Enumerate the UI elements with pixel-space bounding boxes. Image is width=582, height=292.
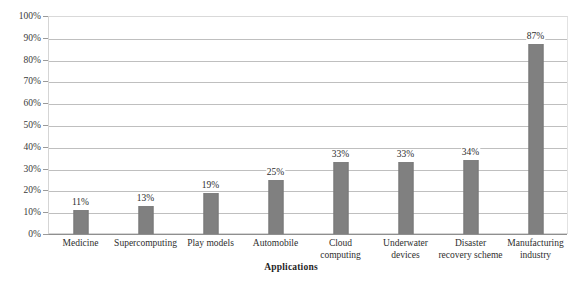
bar <box>463 160 478 234</box>
y-axis-tick-label: 90% <box>1 33 41 43</box>
bar <box>73 210 88 234</box>
bar <box>203 193 218 234</box>
bars-layer: 11%13%19%25%33%33%34%87% <box>48 16 568 234</box>
x-axis-category-label: Manufacturing industry <box>503 238 568 261</box>
bar <box>398 162 413 234</box>
x-axis-category-label: Play models <box>178 238 243 250</box>
bar-group: 13% <box>113 16 178 234</box>
y-axis-tick-label: 80% <box>1 55 41 65</box>
y-axis-tick-label: 50% <box>1 120 41 130</box>
x-axis-labels: MedicineSupercomputingPlay modelsAutomob… <box>48 238 568 284</box>
y-axis-tick-label: 20% <box>1 185 41 195</box>
x-axis-category-label: Automobile <box>243 238 308 250</box>
y-axis-tick-label: 70% <box>1 76 41 86</box>
y-axis-tick-label: 10% <box>1 207 41 217</box>
y-axis-tick-label: 0% <box>1 229 41 239</box>
y-axis-tick-label: 100% <box>1 11 41 21</box>
x-axis-category-label: Supercomputing <box>113 238 178 250</box>
y-axis-tick-label: 30% <box>1 164 41 174</box>
x-axis-category-label: Underwater devices <box>373 238 438 261</box>
bar-value-label: 33% <box>331 149 350 160</box>
bar <box>138 206 153 234</box>
bar-group: 25% <box>243 16 308 234</box>
bar-group: 19% <box>178 16 243 234</box>
bar-value-label: 87% <box>526 31 545 42</box>
bar-value-label: 33% <box>396 149 415 160</box>
bar-chart: 0%10%20%30%40%50%60%70%80%90%100% 11%13%… <box>0 0 582 292</box>
bar-group: 34% <box>438 16 503 234</box>
bar-value-label: 11% <box>71 197 90 208</box>
bar-group: 87% <box>503 16 568 234</box>
y-axis-labels: 0%10%20%30%40%50%60%70%80%90%100% <box>0 0 41 292</box>
y-axis-tick-label: 40% <box>1 142 41 152</box>
y-axis-tick-label: 60% <box>1 98 41 108</box>
bar-group: 11% <box>48 16 113 234</box>
bar-group: 33% <box>308 16 373 234</box>
x-axis-title: Applications <box>0 262 582 272</box>
bar-value-label: 13% <box>136 193 155 204</box>
bar-value-label: 25% <box>266 167 285 178</box>
bar <box>268 180 283 235</box>
bar <box>528 44 543 234</box>
x-axis-category-label: Cloud computing <box>308 238 373 261</box>
bar-value-label: 19% <box>201 180 220 191</box>
x-axis-category-label: Disaster recovery scheme <box>438 238 503 261</box>
bar-value-label: 34% <box>461 147 480 158</box>
bar-group: 33% <box>373 16 438 234</box>
x-axis-category-label: Medicine <box>48 238 113 250</box>
bar <box>333 162 348 234</box>
gridline <box>49 234 567 235</box>
